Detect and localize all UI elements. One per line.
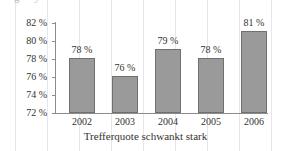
cropped-text-above: g y	[14, 0, 54, 5]
bar-2002	[69, 58, 95, 113]
bar-value-label-2005: 78 %	[188, 45, 234, 55]
chart-figure: g y 82 % 80 % 78 % 76 % 74 % 72 % 78 % 7…	[0, 0, 291, 151]
y-axis-tick-label: 78 %	[26, 54, 47, 64]
y-axis-tick	[52, 113, 56, 114]
x-axis-tick-label-2006: 2006	[231, 116, 277, 127]
bar-value-label-2002: 78 %	[59, 45, 105, 55]
bar-2006	[241, 31, 267, 113]
x-axis-tick-label-2005: 2005	[188, 116, 234, 127]
y-axis-tick-label: 82 %	[26, 18, 47, 28]
y-axis-tick	[52, 95, 56, 96]
bar-2003	[112, 76, 138, 113]
plot-area: 78 % 76 % 79 % 78 % 81 %	[55, 22, 268, 114]
y-axis-tick-labels: 82 % 80 % 78 % 76 % 74 % 72 %	[8, 22, 52, 114]
y-axis-tick	[52, 77, 56, 78]
y-axis-tick-label: 72 %	[26, 108, 47, 118]
y-axis-line	[55, 22, 56, 114]
chart-caption: Trefferquote schwankt stark	[0, 130, 291, 142]
y-axis-tick	[52, 41, 56, 42]
y-axis-tick-label: 80 %	[26, 36, 47, 46]
y-axis-tick	[52, 23, 56, 24]
y-axis-tick-label: 76 %	[26, 72, 47, 82]
y-axis-tick	[52, 59, 56, 60]
bar-value-label-2004: 79 %	[145, 36, 191, 46]
x-axis-tick-label-2002: 2002	[59, 116, 105, 127]
bar-value-label-2003: 76 %	[102, 63, 148, 73]
x-axis-tick-label-2004: 2004	[145, 116, 191, 127]
bar-value-label-2006: 81 %	[231, 18, 277, 28]
cropped-text-above-glyphs: g y	[14, 0, 46, 3]
x-axis-tick-label-2003: 2003	[102, 116, 148, 127]
bar-2005	[198, 58, 224, 113]
bar-2004	[155, 49, 181, 113]
x-axis-tick-labels: 2002 2003 2004 2005 2006	[55, 116, 268, 129]
y-axis-tick-label: 74 %	[26, 90, 47, 100]
x-axis-line	[55, 113, 268, 114]
